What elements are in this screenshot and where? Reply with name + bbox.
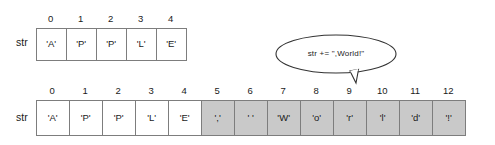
array-after-index-row: 0 1 2 3 4 5 6 7 8 9 10 11 12: [36, 86, 466, 100]
array-cell: 'W': [268, 101, 301, 136]
array-cell: 'A': [37, 101, 70, 136]
array-cell: 'l': [367, 101, 400, 136]
array-before-cells-wrap: 0 1 2 3 4 'A' 'P' 'P' 'L' 'E': [36, 14, 187, 61]
index-label: 6: [234, 86, 267, 100]
index-label: 4: [156, 14, 186, 28]
array-before-index-row: 0 1 2 3 4: [36, 14, 187, 28]
index-label: 10: [366, 86, 399, 100]
index-label: 4: [168, 86, 201, 100]
index-label: 7: [267, 86, 300, 100]
index-label: 8: [300, 86, 333, 100]
array-after: str 0 1 2 3 4 5 6 7 8 9 10 11 12 'A' 'P'…: [16, 86, 466, 136]
index-label: 3: [126, 14, 156, 28]
array-cell: 'P': [67, 29, 97, 61]
index-label: 2: [102, 86, 135, 100]
array-after-cells-wrap: 0 1 2 3 4 5 6 7 8 9 10 11 12 'A' 'P' 'P'…: [36, 86, 466, 136]
array-cell: 'P': [103, 101, 136, 136]
array-cell: ',': [202, 101, 235, 136]
index-label: 3: [135, 86, 168, 100]
index-label: 0: [36, 86, 69, 100]
array-cell: 'A': [37, 29, 67, 61]
array-cell: ' ': [235, 101, 268, 136]
index-label: 1: [69, 86, 102, 100]
index-label: 0: [36, 14, 66, 28]
array-cell: 'o': [301, 101, 334, 136]
index-label: 1: [66, 14, 96, 28]
array-cell: 'P': [97, 29, 127, 61]
string-concatenation-diagram: str 0 1 2 3 4 'A' 'P' 'P' 'L' 'E' str: [0, 0, 495, 145]
array-cell: 'L': [136, 101, 169, 136]
array-before-label: str: [16, 37, 36, 61]
index-label: 5: [201, 86, 234, 100]
array-cell: 'L': [127, 29, 157, 61]
index-label: 11: [399, 86, 432, 100]
array-cell: 'P': [70, 101, 103, 136]
index-label: 9: [333, 86, 366, 100]
index-label: 12: [432, 86, 465, 100]
array-cell: 'E': [169, 101, 202, 136]
array-after-label: str: [16, 112, 36, 136]
array-after-cell-row: 'A' 'P' 'P' 'L' 'E' ',' ' ' 'W' 'o' 'r' …: [36, 100, 466, 136]
array-before: str 0 1 2 3 4 'A' 'P' 'P' 'L' 'E': [16, 14, 187, 61]
array-cell: 'd': [400, 101, 433, 136]
array-cell: 'r': [334, 101, 367, 136]
index-label: 2: [96, 14, 126, 28]
array-before-cell-row: 'A' 'P' 'P' 'L' 'E': [36, 28, 187, 61]
array-cell: '!': [433, 101, 466, 136]
array-cell: 'E': [157, 29, 187, 61]
callout-speech-bubble: str += ",World!": [274, 34, 398, 84]
callout-text: str += ",World!": [274, 34, 398, 74]
